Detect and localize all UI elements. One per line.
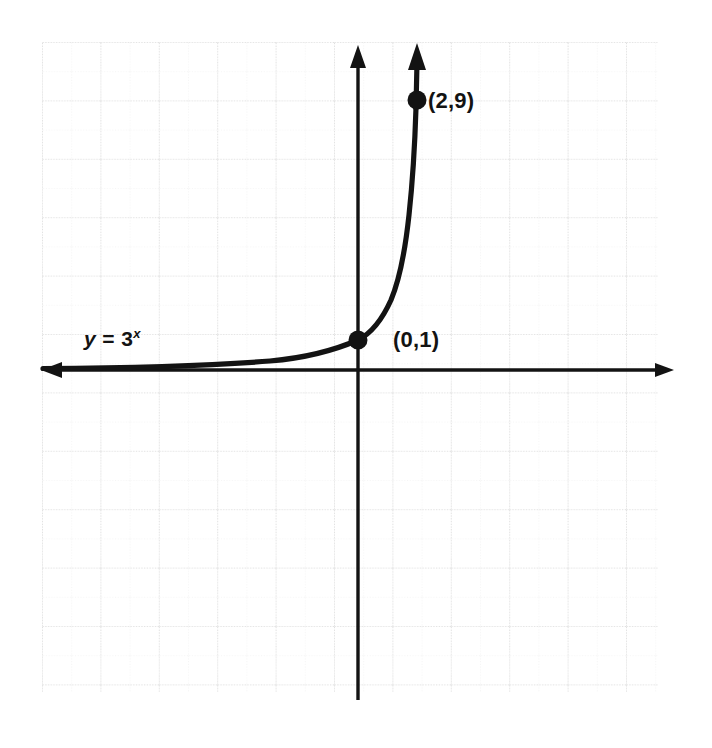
coordinate-plane-svg — [0, 0, 712, 748]
equation-label: y = 3x — [84, 327, 141, 351]
point-marker-2-9 — [408, 91, 427, 110]
equation-exponent: x — [133, 326, 141, 341]
equation-variable: y — [84, 327, 96, 350]
graph-figure: y = 3x (0,1) (2,9) — [0, 0, 712, 748]
equation-operator: = — [96, 327, 121, 350]
x-axis-right-arrow-icon — [655, 363, 674, 377]
point-marker-0-1 — [349, 331, 368, 350]
equation-base: 3 — [121, 327, 133, 350]
point-label-2-9: (2,9) — [428, 88, 474, 114]
point-label-0-1: (0,1) — [393, 327, 439, 353]
